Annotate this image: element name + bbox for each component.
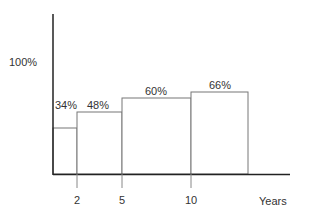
- bar-10-plus: [191, 92, 248, 174]
- value-label-48: 48%: [87, 99, 109, 111]
- x-axis-title: Years: [259, 195, 287, 207]
- bar-0-2: [53, 128, 77, 174]
- step-bar-chart: 100% 34% 48% 60% 66% 2 5 10 Years: [0, 0, 309, 217]
- bars: [53, 92, 248, 174]
- value-label-34: 34%: [55, 99, 77, 111]
- bar-5-10: [122, 98, 191, 174]
- bar-2-5: [77, 112, 122, 174]
- value-label-66: 66%: [209, 79, 231, 91]
- x-tick-label-10: 10: [185, 194, 197, 206]
- x-tick-label-5: 5: [119, 194, 125, 206]
- value-label-60: 60%: [145, 85, 167, 97]
- y-tick-label-100: 100%: [9, 56, 37, 68]
- x-tick-label-2: 2: [74, 194, 80, 206]
